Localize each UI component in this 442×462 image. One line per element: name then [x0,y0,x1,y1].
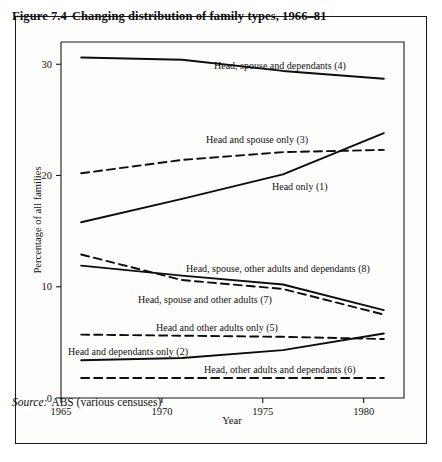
figure-caption-text: Changing distribution of family types, 1… [72,9,327,23]
figure-caption: Figure 7.4Changing distribution of famil… [12,9,327,24]
source-text: ABS (various censuses) [51,396,161,408]
figure-box [15,16,427,444]
source-note: Source:ABS (various censuses) [12,396,161,408]
source-label: Source: [12,396,47,408]
figure-number: Figure 7.4 [12,9,67,23]
